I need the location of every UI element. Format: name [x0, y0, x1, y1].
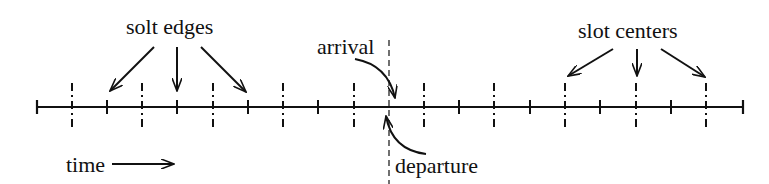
slot-edges-label: solt edges [126, 14, 213, 39]
slot-centers-arrows [568, 49, 705, 77]
slot-timing-diagram: solt edges slot centers arrival departur… [0, 0, 769, 184]
slot-centers-label: slot centers [578, 18, 678, 43]
time-label: time [66, 152, 105, 177]
departure-arrow [386, 116, 426, 154]
departure-label: departure [395, 153, 478, 178]
arrival-label: arrival [317, 34, 374, 59]
slot-edges-arrows [110, 47, 246, 92]
